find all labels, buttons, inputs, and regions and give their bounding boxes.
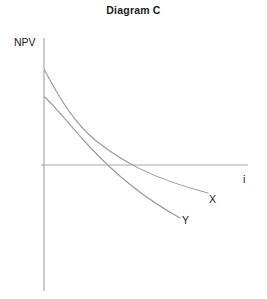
curve-x bbox=[45, 70, 209, 193]
curve-x-label: X bbox=[209, 193, 216, 205]
chart-plot-area bbox=[0, 0, 267, 299]
diagram-figure: Diagram C NPV i X Y bbox=[0, 0, 267, 299]
x-axis-label: i bbox=[243, 173, 245, 185]
curve-y-label: Y bbox=[182, 214, 189, 226]
y-axis-label: NPV bbox=[14, 36, 36, 48]
curve-y bbox=[45, 97, 181, 218]
